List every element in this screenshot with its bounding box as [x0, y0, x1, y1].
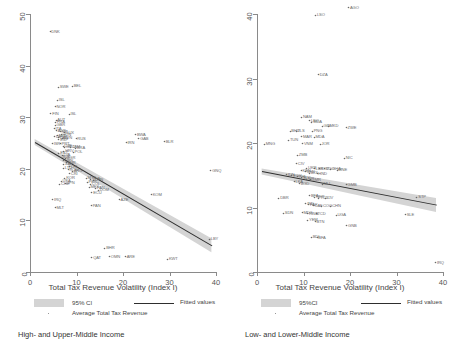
x-tick-mark	[216, 272, 217, 276]
ci-band-svg	[257, 14, 443, 272]
y-tick-label: 20	[235, 134, 253, 152]
point-label: LSO	[317, 12, 325, 17]
legend-right: 95%CI Fitted values Average Total Tax Re…	[245, 298, 445, 320]
scatter-point: MLT	[55, 206, 64, 210]
x-tick-mark	[170, 272, 171, 276]
y-tick-label: 10	[8, 211, 26, 229]
scatter-point: GNQ	[210, 169, 221, 173]
y-tick-label: 10	[235, 199, 253, 217]
point-label: OMN	[111, 254, 120, 259]
plot-area-left: 01020304050 010203040 DNKSWEBELISLNORFIN…	[30, 14, 216, 272]
scatter-point: ISL	[69, 112, 77, 116]
legend-left: 95% CI Fitted values Average Total Tax R…	[18, 298, 218, 320]
point-label: MNG	[266, 141, 275, 146]
point-label: DBR	[280, 195, 288, 200]
scatter-point: JOR	[320, 142, 330, 146]
point-label: PNG	[314, 128, 323, 133]
scatter-point: VNM	[302, 142, 313, 146]
point-label: SWE	[60, 84, 69, 89]
scatter-point: MDA	[314, 135, 325, 139]
point-label: JOR	[322, 141, 330, 146]
scatter-point: IRQ	[435, 261, 444, 265]
point-label: BLR	[166, 139, 174, 144]
two-panel-scatter-figure: 01020304050 010203040 DNKSWEBELISLNORFIN…	[0, 0, 453, 352]
scatter-point: QAT	[91, 256, 101, 260]
x-tick-mark	[257, 272, 258, 276]
point-label: RUS	[77, 136, 85, 141]
point-label: MAR	[303, 134, 312, 139]
point-label: IRN	[128, 140, 135, 145]
point-label: NOR	[56, 104, 65, 109]
point-label: TUN	[290, 137, 298, 142]
scatter-point: DBR	[278, 196, 288, 200]
point-label: BEL	[74, 83, 81, 88]
legend-fit-line-swatch	[134, 303, 174, 304]
point-label: CHN	[332, 203, 341, 208]
point-label: TCD	[317, 211, 325, 216]
panel-low-lower-middle-income: 010203040 010203040 AGOLSODZANAMLSOMDAGI…	[227, 0, 453, 352]
x-axis-title-left: Total Tax Revenue Volatility (Index I)	[0, 283, 226, 292]
scatter-point: SWE	[58, 85, 69, 89]
point-label: IRQ	[54, 197, 61, 202]
x-tick-mark	[443, 272, 444, 276]
point-label: ISL	[59, 97, 65, 102]
scatter-point: CMR	[310, 178, 321, 182]
legend-ci-swatch	[34, 299, 64, 307]
scatter-point: RUS	[76, 137, 86, 141]
point-label: GNQ	[212, 168, 221, 173]
point-label: BTN	[316, 219, 324, 224]
point-label: NIC	[346, 155, 353, 160]
point-label: BFA	[318, 235, 325, 240]
scatter-point: FIN	[50, 112, 58, 116]
point-label: QAT	[93, 255, 101, 260]
legend-ci-label: 95%CI	[299, 299, 318, 306]
legend-fit-line-swatch	[361, 303, 401, 304]
point-label: GMB	[348, 182, 357, 187]
scatter-point: ZWE	[346, 125, 357, 129]
point-label: PAN	[93, 203, 101, 208]
scatter-point: CIV	[296, 162, 304, 166]
scatter-point: TCD	[316, 212, 326, 216]
y-tick-label: 40	[8, 57, 26, 75]
y-tick-label: 30	[8, 108, 26, 126]
point-label: ZWE	[348, 124, 357, 129]
panel-subtitle-left: High- and Upper-Middle Income	[18, 330, 124, 339]
scatter-point: HND	[317, 172, 327, 176]
y-tick-label: 0	[8, 263, 26, 281]
scatter-point: MLI	[322, 182, 330, 186]
scatter-point: ZMB	[297, 153, 307, 157]
scatter-point: MAR	[301, 135, 312, 139]
point-label: POL	[75, 149, 83, 154]
scatter-point: SDN	[283, 211, 293, 215]
scatter-point: BFA	[317, 236, 326, 240]
point-label: BGD	[301, 181, 310, 186]
y-tick-label: 0	[235, 263, 253, 281]
scatter-point: GAB	[138, 137, 148, 141]
point-label: CMR	[312, 177, 321, 182]
scatter-point: IRQ	[52, 198, 61, 202]
scatter-point: LSO	[315, 13, 325, 17]
point-label: UGA	[337, 212, 346, 217]
point-label: STP	[418, 194, 426, 199]
point-label: DNK	[51, 29, 59, 34]
scatter-point: BLR	[164, 140, 173, 144]
plot-area-right: 010203040 010203040 AGOLSODZANAMLSOMDAGI…	[257, 14, 443, 272]
y-tick-label: 40	[235, 5, 253, 23]
x-tick-mark	[304, 272, 305, 276]
scatter-point: DZA	[318, 73, 328, 77]
x-axis-title-right: Total Tax Revenue Volatility (Index I)	[227, 283, 453, 292]
point-label: MLT	[56, 205, 64, 210]
x-tick-mark	[397, 272, 398, 276]
scatter-point: BGD	[299, 182, 309, 186]
point-label: CIV	[327, 195, 334, 200]
scatter-point: CIV	[325, 196, 333, 200]
scatter-point: OMN	[109, 255, 120, 259]
scatter-point: BTN	[315, 220, 325, 224]
point-label: VNM	[304, 141, 313, 146]
point-label: ARE	[127, 254, 135, 259]
point-label: LBY	[211, 236, 218, 241]
point-label: IRQ	[437, 260, 444, 265]
scatter-point: MNE	[337, 168, 348, 172]
legend-average-label: Average Total Tax Revenue	[72, 309, 147, 316]
x-tick-mark	[77, 272, 78, 276]
